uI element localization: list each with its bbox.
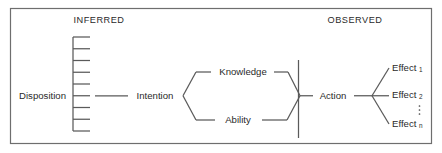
node-intention: Intention	[137, 90, 174, 101]
edge-branches-action	[262, 72, 300, 120]
effect-n-subscript: n	[419, 122, 423, 129]
effect-2-subscript: 2	[419, 93, 423, 100]
effect-2-label: Effect	[392, 89, 417, 100]
node-effect-2: Effect 2	[392, 89, 423, 100]
node-knowledge: Knowledge	[219, 66, 266, 77]
effect-1-label: Effect	[392, 62, 417, 73]
diagram-canvas: INFERRED OBSERVED Disposition Intention	[0, 0, 442, 153]
figure-root: INFERRED OBSERVED Disposition Intention	[0, 0, 442, 153]
effects-vertical-ellipsis-icon	[419, 105, 421, 115]
node-ability: Ability	[225, 114, 251, 125]
edge-intention-branches	[183, 72, 215, 120]
effect-1-subscript: 1	[419, 66, 423, 73]
node-effect-n: Effect n	[392, 118, 423, 129]
disposition-bracket	[73, 37, 90, 131]
node-action: Action	[320, 90, 347, 101]
effect-n-label: Effect	[392, 118, 417, 129]
edge-action-effects	[354, 68, 389, 124]
node-disposition: Disposition	[19, 90, 66, 101]
node-effect-1: Effect 1	[392, 62, 423, 73]
header-inferred: INFERRED	[74, 15, 125, 25]
header-observed: OBSERVED	[328, 15, 383, 25]
